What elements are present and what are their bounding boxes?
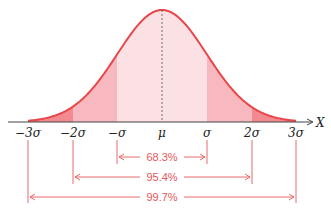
tick-labels: −3σ −2σ −σ μ σ 2σ 3σ (15, 126, 305, 140)
interval-label-2sigma: 95.4% (146, 171, 177, 183)
band-2sigma-left (73, 0, 117, 122)
tick-label: −σ (108, 126, 127, 140)
normal-distribution-chart: X −3σ −2σ −σ μ σ 2σ 3σ 68.3% 95.4% 99.7% (0, 0, 331, 209)
tick-label: −3σ (15, 126, 42, 140)
interval-label-1sigma: 68.3% (146, 151, 177, 163)
band-3sigma-right (252, 0, 296, 122)
tick-label: 2σ (243, 126, 261, 140)
tick-label: 3σ (288, 126, 305, 140)
interval-label-3sigma: 99.7% (146, 191, 177, 203)
tick-label: −2σ (60, 126, 87, 140)
x-axis-label: X (315, 116, 325, 130)
band-2sigma-right (207, 0, 252, 122)
tick-label: μ (158, 126, 166, 140)
band-3sigma-left (28, 0, 73, 122)
tick-label: σ (203, 126, 212, 140)
